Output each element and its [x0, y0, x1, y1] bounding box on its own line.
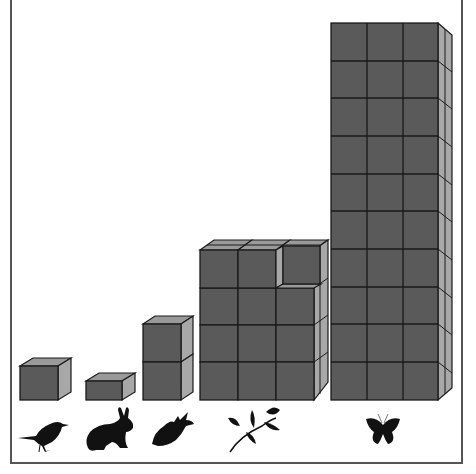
stack-plant [200, 240, 328, 400]
cube-stacks-diagram [0, 0, 476, 474]
butterfly-icon [366, 414, 400, 444]
stack-butterfly [331, 23, 452, 400]
stack-fish [143, 316, 193, 400]
rabbit-icon [86, 407, 133, 450]
plant-branch-icon [228, 407, 280, 452]
bird-icon [18, 422, 69, 452]
stack-bird [20, 358, 71, 400]
fish-icon [152, 412, 194, 446]
stack-rabbit [86, 373, 135, 400]
